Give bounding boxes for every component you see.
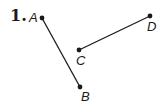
point-a (40, 16, 45, 21)
segment-diagram: A B C D (0, 0, 166, 104)
segment-ab (42, 18, 80, 87)
label-b: B (81, 89, 90, 104)
label-a: A (28, 10, 38, 25)
label-c: C (76, 53, 86, 68)
point-c (77, 48, 82, 53)
label-d: D (147, 19, 156, 34)
segment-cd (79, 16, 150, 50)
point-d (148, 14, 153, 19)
